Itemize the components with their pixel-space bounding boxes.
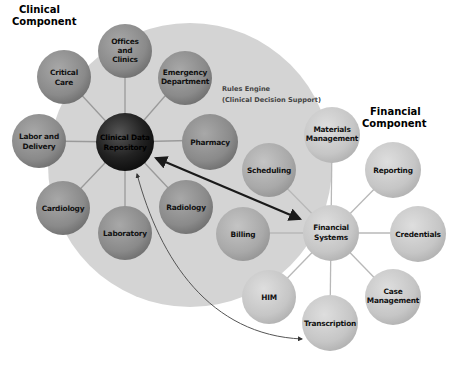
- node-label: Materials: [313, 125, 351, 134]
- node-label: Management: [306, 134, 359, 143]
- node-label: Billing: [231, 230, 256, 239]
- financial-component-heading: Component: [362, 118, 427, 129]
- node-label: Management: [367, 296, 420, 305]
- node-label: Transcription: [304, 319, 356, 328]
- node-label: HIM: [261, 293, 277, 302]
- diagram-canvas: Offices and Clinics Critical Care Emerge…: [0, 0, 457, 371]
- node-label: Emergency: [163, 68, 208, 77]
- node-label: Offices: [111, 37, 139, 46]
- node-label: Clinical Data: [100, 133, 150, 142]
- node-scheduling[interactable]: Scheduling: [242, 143, 296, 197]
- node-pharmacy[interactable]: Pharmacy: [182, 114, 238, 170]
- rules-engine-label: Rules Engine: [222, 85, 271, 93]
- node-emergency-department[interactable]: Emergency Department: [158, 51, 212, 105]
- node-label: Pharmacy: [190, 138, 230, 147]
- node-offices-and-clinics[interactable]: Offices and Clinics: [98, 24, 152, 78]
- node-critical-care[interactable]: Critical Care: [37, 50, 91, 104]
- node-label: Critical: [50, 68, 78, 77]
- node-label: Delivery: [23, 142, 56, 151]
- node-label: Cardiology: [42, 204, 85, 213]
- node-label: Radiology: [166, 203, 206, 212]
- node-label: Care: [55, 78, 73, 87]
- financial-component-heading: Financial: [370, 106, 421, 117]
- node-cardiology[interactable]: Cardiology: [36, 181, 90, 235]
- node-reporting[interactable]: Reporting: [365, 142, 421, 198]
- node-materials-management[interactable]: Materials Management: [304, 107, 360, 163]
- node-credentials[interactable]: Credentials: [390, 206, 446, 262]
- clinical-component-heading: Clinical: [19, 4, 60, 15]
- node-label: Scheduling: [247, 166, 291, 175]
- node-label: Department: [161, 77, 210, 86]
- node-label: Systems: [314, 233, 349, 242]
- node-labor-and-delivery[interactable]: Labor and Delivery: [12, 114, 66, 168]
- node-laboratory[interactable]: Laboratory: [98, 206, 152, 260]
- node-label: Reporting: [373, 166, 413, 175]
- clinical-component-heading: Component: [12, 16, 77, 27]
- node-case-management[interactable]: Case Management: [365, 269, 421, 325]
- node-label: and: [118, 46, 133, 55]
- node-label: Clinics: [112, 55, 138, 64]
- node-radiology[interactable]: Radiology: [159, 180, 213, 234]
- node-label: Case: [383, 287, 402, 296]
- node-label: Labor and: [19, 132, 59, 141]
- node-transcription[interactable]: Transcription: [302, 295, 358, 351]
- node-financial-systems[interactable]: Financial Systems: [303, 205, 359, 261]
- node-label: Laboratory: [103, 229, 147, 238]
- node-him[interactable]: HIM: [242, 270, 296, 324]
- node-clinical-data-repository[interactable]: Clinical Data Repository: [96, 113, 154, 171]
- node-label: Financial: [313, 223, 349, 232]
- rules-engine-label: (Clinical Decision Support): [222, 96, 321, 104]
- node-label: Repository: [103, 143, 146, 152]
- node-billing[interactable]: Billing: [216, 207, 270, 261]
- node-label: Credentials: [395, 230, 441, 239]
